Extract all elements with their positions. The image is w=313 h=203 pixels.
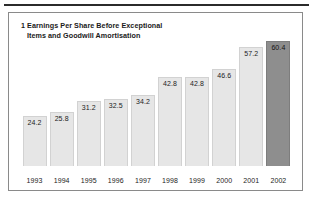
x-axis-label-2001: 2001 — [239, 177, 263, 184]
x-axis-label-1999: 1999 — [185, 177, 209, 184]
bar-slot: 57.2 — [239, 29, 263, 166]
top-divider-rule — [4, 4, 309, 6]
bar-2001[interactable]: 57.2 — [239, 47, 263, 166]
bar-value-label: 46.6 — [213, 72, 235, 79]
bar-slot: 42.8 — [158, 29, 182, 166]
x-axis-label-1996: 1996 — [104, 177, 128, 184]
x-axis-label-1998: 1998 — [158, 177, 182, 184]
bar-slot: 60.4 — [266, 29, 290, 166]
bar-value-label: 42.8 — [159, 80, 181, 87]
bar-slot: 46.6 — [212, 29, 236, 166]
bar-slot: 25.8 — [50, 29, 74, 166]
x-axis-label-1997: 1997 — [131, 177, 155, 184]
plot-area: 24.225.831.232.534.242.842.846.657.260.4 — [21, 29, 292, 166]
bar-slot: 31.2 — [77, 29, 101, 166]
bar-slot: 24.2 — [23, 29, 47, 166]
bar-1993[interactable]: 24.2 — [23, 116, 47, 166]
x-axis-label-2002: 2002 — [266, 177, 290, 184]
bar-value-label: 57.2 — [240, 50, 262, 57]
x-axis-labels: 1993199419951996199719981999200020012002 — [21, 177, 292, 184]
bar-slot: 42.8 — [185, 29, 209, 166]
bar-1995[interactable]: 31.2 — [77, 101, 101, 166]
bar-value-label: 25.8 — [51, 115, 73, 122]
bar-slot: 34.2 — [131, 29, 155, 166]
bar-2000[interactable]: 46.6 — [212, 69, 236, 166]
x-axis-label-1995: 1995 — [77, 177, 101, 184]
bar-1996[interactable]: 32.5 — [104, 99, 128, 166]
chart-frame: 1 Earnings Per Share Before Exceptional … — [8, 12, 303, 191]
bar-1999[interactable]: 42.8 — [185, 77, 209, 166]
bar-1997[interactable]: 34.2 — [131, 95, 155, 166]
x-axis-label-1993: 1993 — [23, 177, 47, 184]
x-axis-label-1994: 1994 — [50, 177, 74, 184]
bar-1994[interactable]: 25.8 — [50, 112, 74, 166]
bar-value-label: 24.2 — [24, 119, 46, 126]
bar-1998[interactable]: 42.8 — [158, 77, 182, 166]
bar-value-label: 32.5 — [105, 102, 127, 109]
x-axis-label-2000: 2000 — [212, 177, 236, 184]
bar-2002[interactable]: 60.4 — [266, 41, 290, 166]
bar-value-label: 34.2 — [132, 98, 154, 105]
bar-series: 24.225.831.232.534.242.842.846.657.260.4 — [21, 29, 292, 166]
bar-value-label: 42.8 — [186, 80, 208, 87]
bar-value-label: 60.4 — [267, 44, 289, 51]
bar-value-label: 31.2 — [78, 104, 100, 111]
bar-slot: 32.5 — [104, 29, 128, 166]
